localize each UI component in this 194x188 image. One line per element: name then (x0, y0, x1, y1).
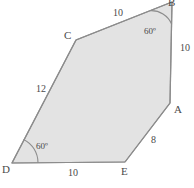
polygon-canvas (0, 0, 194, 188)
vertex-label-C: C (64, 30, 71, 41)
geometry-figure: B C D E A 10 12 10 8 10 60º 60º (0, 0, 194, 188)
vertex-label-E: E (121, 166, 128, 177)
side-length-label-DE: 10 (68, 168, 78, 178)
side-length-label-BC: 10 (113, 8, 123, 18)
side-length-label-CD: 12 (36, 84, 46, 94)
side-length-label-AB: 10 (180, 43, 190, 53)
angle-label-B: 60º (144, 27, 156, 36)
vertex-label-B: B (168, 0, 175, 8)
vertex-label-A: A (174, 104, 182, 115)
side-length-label-EA: 8 (151, 135, 156, 145)
vertex-label-D: D (2, 164, 10, 175)
angle-label-D: 60º (36, 142, 48, 151)
